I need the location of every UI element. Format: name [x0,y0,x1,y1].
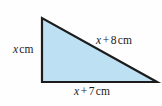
label-bottom-side: x+7cm [74,86,110,98]
label-bottom-side-number: 7 [89,85,95,97]
triangle-polygon [42,18,157,82]
label-bottom-side-operator: + [79,85,89,97]
label-hypotenuse-number: 8 [111,34,117,46]
label-bottom-side-unit: cm [95,85,110,97]
label-hypotenuse-operator: + [101,34,111,46]
label-left-side: xcm [13,44,33,56]
geometry-figure: xcm x+8cm x+7cm [0,0,162,106]
label-hypotenuse-unit: cm [117,34,132,46]
label-left-side-unit: cm [18,43,33,55]
label-hypotenuse: x+8cm [96,35,132,47]
